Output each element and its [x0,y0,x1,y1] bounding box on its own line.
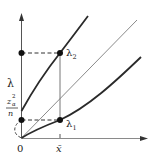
lambda2-label: λ 2 [66,47,77,61]
lower-curve [22,57,142,138]
x-axis-arrow-icon [140,136,148,141]
confidence-interval-diagram: λ z 2 α n λ 2 λ 1 0 x̄ [0,0,157,158]
y-axis-label: λ [7,77,14,90]
point-lambda2-axis [19,50,25,56]
intercept-denominator: n [8,109,13,118]
point-lambda1 [57,117,63,123]
upper-curve [22,16,89,111]
intercept-label: z 2 α n [6,93,18,118]
x-bar-label: x̄ [56,143,62,154]
y-axis-arrow-icon [19,13,24,21]
lambda1-label: λ 1 [66,118,77,132]
intercept-sub: α [12,101,16,107]
svg-text:2: 2 [73,53,77,61]
svg-text:1: 1 [73,124,77,132]
point-lambda2 [57,50,63,56]
origin-label: 0 [17,143,23,154]
x-axis [21,136,148,141]
diagonal-line [22,20,138,138]
point-lambda1-axis [19,117,25,123]
intercept-sup: 2 [12,93,16,99]
